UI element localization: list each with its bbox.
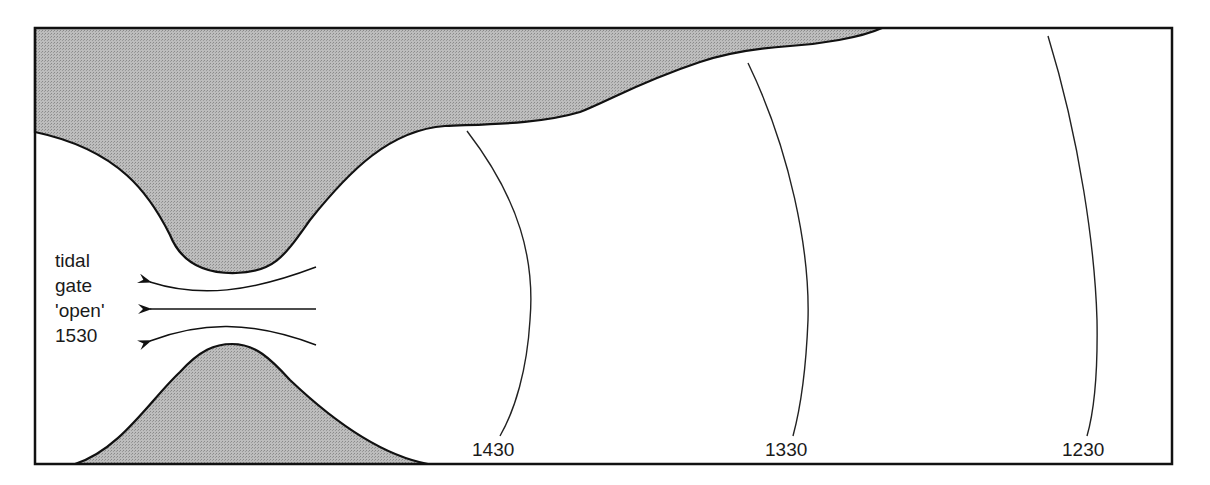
time-contour-1330 (748, 63, 808, 436)
upper-landmass (35, 28, 882, 273)
contour-label-1230: 1230 (1062, 439, 1104, 460)
contour-label-1430: 1430 (472, 439, 514, 460)
contour-label-1330: 1330 (765, 439, 807, 460)
gate-label-line-1: tidal (55, 250, 90, 271)
time-contour-1230 (1048, 36, 1097, 436)
lower-landmass (75, 344, 428, 464)
tidal-gate-diagram: tidal gate 'open' 1530 1430 1330 1230 (0, 0, 1210, 485)
gate-label-line-2: gate (55, 275, 92, 296)
time-contour-1430 (467, 131, 531, 436)
flow-arrow-lower (150, 326, 316, 345)
gate-label-line-4: 1530 (55, 325, 97, 346)
gate-label-line-3: 'open' (55, 300, 105, 321)
